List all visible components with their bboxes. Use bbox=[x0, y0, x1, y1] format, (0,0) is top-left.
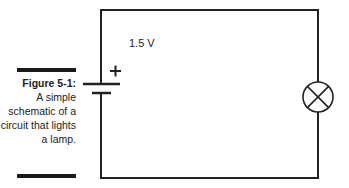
plus-polarity-icon bbox=[110, 66, 121, 77]
voltage-label: 1.5 V bbox=[129, 37, 155, 49]
circuit-schematic bbox=[0, 0, 349, 188]
lamp-icon bbox=[303, 82, 333, 112]
wire-bottom bbox=[101, 93, 318, 178]
battery-icon bbox=[83, 84, 120, 93]
